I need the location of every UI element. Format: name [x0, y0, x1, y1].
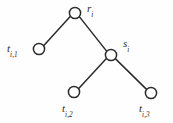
- tree-diagram-figure: ri si ti,1 ti,2 ti,3: [0, 0, 173, 123]
- edge-group: [43, 16, 146, 89]
- node-internal-s: [105, 49, 116, 60]
- node-label-leaf-3: ti,3: [139, 103, 150, 114]
- node-label-leaf-2: ti,2: [62, 103, 73, 114]
- edge-root-to-leaf1: [43, 16, 70, 46]
- edge-root-to-internal: [79, 17, 107, 52]
- node-root: [69, 7, 80, 18]
- node-leaf-1: [33, 43, 44, 54]
- node-label-root: ri: [87, 3, 93, 14]
- node-label-internal-s: si: [123, 38, 129, 49]
- node-label-leaf-1: ti,1: [7, 43, 18, 54]
- node-leaf-2: [68, 86, 79, 97]
- node-leaf-3: [145, 87, 156, 98]
- node-group: [33, 7, 156, 98]
- edge-internal-to-leaf2: [79, 58, 107, 88]
- edge-internal-to-leaf3: [115, 59, 147, 90]
